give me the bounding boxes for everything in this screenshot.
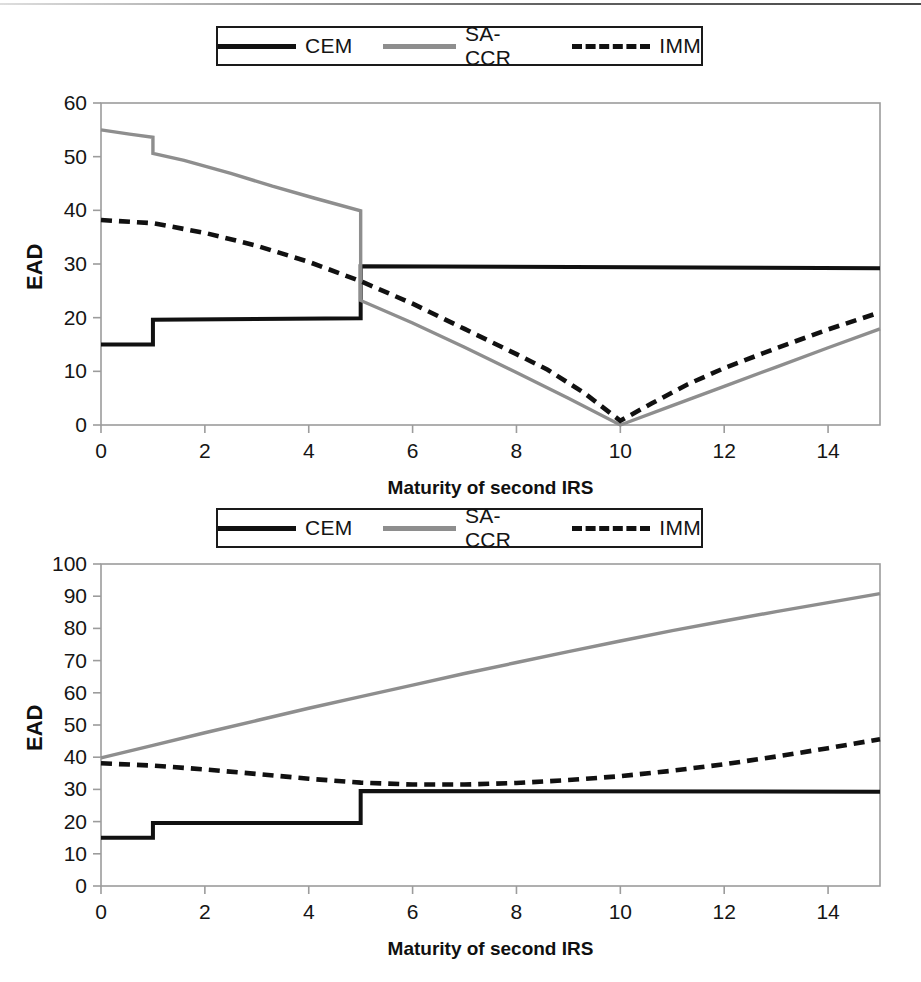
y-axis-tick-label: 0: [0, 874, 87, 898]
legend-entry-saccr: SA-CCR: [383, 504, 543, 552]
x-axis-tick-label: 12: [713, 900, 736, 924]
bottom-chart-legend: CEM SA-CCR IMM: [216, 508, 703, 548]
y-axis-tick-label: 10: [0, 359, 87, 383]
y-axis-tick-label: 10: [0, 842, 87, 866]
legend-line-swatch-saccr-icon: [383, 526, 456, 531]
y-axis-tick-label: 20: [0, 810, 87, 834]
scan-artifact-rule: [0, 3, 921, 5]
y-axis-tick-label: 70: [0, 649, 87, 673]
y-axis-title: EAD: [22, 244, 48, 290]
legend-label-imm: IMM: [659, 34, 701, 58]
x-axis-title: Maturity of second IRS: [101, 938, 880, 960]
x-axis-tick-label: 6: [407, 900, 419, 924]
plot-wrap-bottom-canvas: [0, 548, 921, 982]
x-axis-tick-label: 4: [303, 900, 315, 924]
x-axis-tick-label: 4: [303, 439, 315, 463]
y-axis-tick-label: 60: [0, 681, 87, 705]
legend-label-cem: CEM: [305, 34, 353, 58]
x-axis-tick-label: 0: [95, 900, 107, 924]
x-axis-tick-label: 0: [95, 439, 107, 463]
legend-entry-saccr: SA-CCR: [383, 22, 543, 70]
x-axis-tick-label: 6: [407, 439, 419, 463]
legend-line-swatch-imm-icon: [572, 44, 650, 49]
plot-wrap-top-canvas: [0, 72, 921, 484]
top-chart-plot-area: 010203040506002468101214Maturity of seco…: [0, 72, 921, 484]
y-axis-tick-label: 60: [0, 91, 87, 115]
legend-line-swatch-cem-icon: [218, 44, 296, 49]
x-axis-tick-label: 14: [816, 439, 839, 463]
x-axis-tick-label: 8: [511, 900, 523, 924]
legend-entry-cem: CEM: [218, 516, 353, 540]
x-axis-tick-label: 10: [609, 439, 632, 463]
y-axis-tick-label: 90: [0, 584, 87, 608]
y-axis-tick-label: 20: [0, 306, 87, 330]
series-line-saccr: [101, 594, 880, 758]
legend-entry-imm: IMM: [572, 34, 701, 58]
y-axis-tick-label: 100: [0, 552, 87, 576]
x-axis-tick-label: 2: [199, 439, 211, 463]
y-axis-tick-label: 30: [0, 777, 87, 801]
top-chart-legend: CEM SA-CCR IMM: [216, 26, 703, 66]
plot-frame: [101, 103, 880, 425]
top-chart-figure: CEM SA-CCR IMM 010203040506002468101214M…: [0, 14, 921, 484]
legend-line-swatch-cem-icon: [218, 526, 296, 531]
y-axis-tick-label: 40: [0, 198, 87, 222]
bottom-chart-figure: CEM SA-CCR IMM 0102030405060708090100024…: [0, 496, 921, 982]
series-line-cem: [101, 791, 880, 838]
legend-line-swatch-saccr-icon: [383, 44, 456, 49]
legend-entry-imm: IMM: [572, 516, 701, 540]
legend-label-imm: IMM: [659, 516, 701, 540]
legend-entry-cem: CEM: [218, 34, 353, 58]
legend-line-swatch-imm-icon: [572, 526, 650, 531]
x-axis-tick-label: 14: [816, 900, 839, 924]
x-axis-tick-label: 8: [511, 439, 523, 463]
x-axis-tick-label: 12: [713, 439, 736, 463]
legend-label-saccr: SA-CCR: [465, 22, 542, 70]
legend-label-cem: CEM: [305, 516, 353, 540]
y-axis-tick-label: 50: [0, 145, 87, 169]
y-axis-tick-label: 0: [0, 413, 87, 437]
x-axis-tick-label: 2: [199, 900, 211, 924]
legend-label-saccr: SA-CCR: [465, 504, 542, 552]
y-axis-tick-label: 80: [0, 616, 87, 640]
series-line-imm: [101, 739, 880, 784]
series-line-cem: [101, 266, 880, 344]
x-axis-tick-label: 10: [609, 900, 632, 924]
bottom-chart-plot-area: 010203040506070809010002468101214Maturit…: [0, 548, 921, 982]
y-axis-title: EAD: [22, 705, 48, 751]
series-line-saccr: [101, 130, 880, 425]
